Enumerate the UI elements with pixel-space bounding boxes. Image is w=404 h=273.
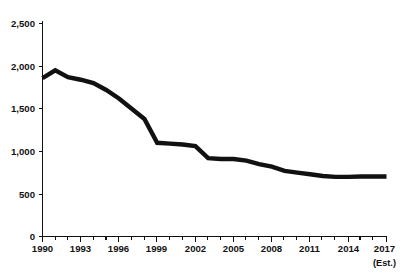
y-tick-label: 1,500 [11,103,35,114]
x-tick-label: 1996 [108,243,129,254]
data-series-line [43,70,387,177]
x-tick-label: 2011 [299,243,320,254]
y-tick-label: 2,500 [11,18,35,29]
chart-svg: 2,500 2,000 1,500 1,000 500 0 [0,0,404,273]
x-tick-label: 2014 [338,243,360,254]
x-tick-label: 2017 [374,243,395,254]
x-tick-label-note: (Est.) [373,258,396,268]
line-chart: 2,500 2,000 1,500 1,000 500 0 [0,0,404,273]
y-tick-label: 0 [30,231,35,242]
x-tick-label: 1999 [146,243,167,254]
y-tick-marks [39,24,43,237]
x-tick-label: 2002 [185,243,206,254]
y-tick-label: 1,000 [11,146,35,157]
x-tick-label: 2005 [223,243,245,254]
y-tick-label: 500 [19,189,35,200]
x-tick-label: 1993 [70,243,91,254]
x-tick-label: 1990 [32,243,53,254]
y-tick-label: 2,000 [11,61,35,72]
x-tick-label: 2008 [261,243,283,254]
x-tick-labels: 1990 1993 1996 1999 2002 2005 2008 2011 … [32,243,396,268]
y-tick-labels: 2,500 2,000 1,500 1,000 500 0 [11,18,35,242]
